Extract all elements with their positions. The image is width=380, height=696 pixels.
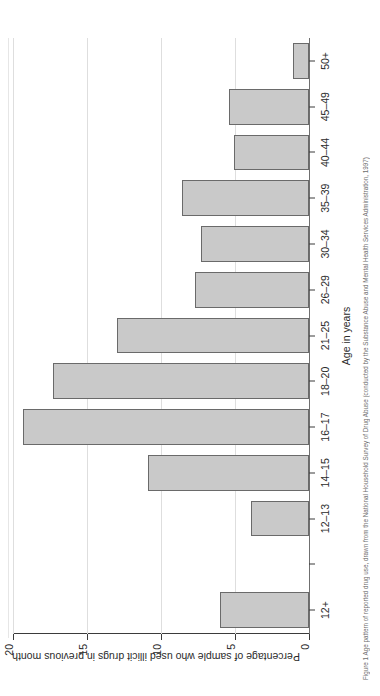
bar-slot: 26–29 xyxy=(14,267,309,313)
y-axis-title: Percentage of sample who used illicit dr… xyxy=(0,651,321,663)
x-axis-tick xyxy=(309,244,315,245)
bar xyxy=(148,455,309,491)
x-axis-tick xyxy=(309,106,315,107)
x-axis-tick xyxy=(309,427,315,428)
bar xyxy=(182,180,309,216)
bar xyxy=(229,89,309,125)
x-axis-tick-label: 12–13 xyxy=(319,504,331,533)
x-axis-tick-label: 50+ xyxy=(319,52,331,70)
bar-slot xyxy=(14,541,309,587)
bar xyxy=(53,363,309,399)
y-axis-tick xyxy=(309,634,310,640)
x-axis-tick-label: 45–49 xyxy=(319,92,331,121)
bar-slot: 30–34 xyxy=(14,221,309,267)
chart-plot-area: 05101520 12+12–1314–1516–1718–2021–2526–… xyxy=(14,38,310,634)
bar xyxy=(23,409,309,445)
bar-slot: 50+ xyxy=(14,38,309,84)
bar-slot: 45–49 xyxy=(14,84,309,130)
bar xyxy=(234,135,309,171)
x-axis-tick-label: 16–17 xyxy=(319,412,331,441)
figure-caption: Figure 1 Age pattern of reported drug us… xyxy=(362,8,370,680)
bar xyxy=(293,43,309,79)
y-axis-tick xyxy=(161,634,162,640)
y-axis-tick-label: 0 xyxy=(299,644,311,650)
bar-slot: 12+ xyxy=(14,587,309,633)
x-axis-tick xyxy=(309,610,315,611)
x-axis-tick xyxy=(309,289,315,290)
x-axis-tick-label: 35–39 xyxy=(319,184,331,213)
y-axis-tick-label: 5 xyxy=(225,644,237,650)
y-axis-tick xyxy=(13,634,14,640)
bar-slot: 12–13 xyxy=(14,496,309,542)
x-axis-tick xyxy=(309,152,315,153)
bar-slot: 35–39 xyxy=(14,175,309,221)
y-axis-line xyxy=(14,633,310,634)
x-axis-tick-label: 21–25 xyxy=(319,321,331,350)
x-axis-tick xyxy=(309,198,315,199)
bar xyxy=(220,592,309,628)
bar xyxy=(251,501,309,537)
bar xyxy=(117,318,309,354)
rotated-page-stage: 05101520 12+12–1314–1516–1718–2021–2526–… xyxy=(0,0,380,696)
x-axis-tick xyxy=(309,564,315,565)
x-axis-tick-label: 12+ xyxy=(319,601,331,619)
x-axis-tick xyxy=(309,381,315,382)
bar-slot: 18–20 xyxy=(14,358,309,404)
x-axis-tick-label: 40–44 xyxy=(319,138,331,167)
y-axis-tick xyxy=(235,634,236,640)
bar-slot: 40–44 xyxy=(14,130,309,176)
bars-group: 12+12–1314–1516–1718–2021–2526–2930–3435… xyxy=(14,38,309,633)
y-axis-tick xyxy=(87,634,88,640)
bar-slot: 21–25 xyxy=(14,313,309,359)
x-axis-tick-label: 30–34 xyxy=(319,229,331,258)
bar xyxy=(201,226,309,262)
bar-slot: 14–15 xyxy=(14,450,309,496)
x-axis-tick xyxy=(309,472,315,473)
bar xyxy=(195,272,309,308)
x-axis-title: Age in years xyxy=(340,38,352,634)
x-axis-tick-label: 18–20 xyxy=(319,367,331,396)
scan-artifact-line-top xyxy=(8,38,9,638)
bar-slot: 16–17 xyxy=(14,404,309,450)
figure-container: 05101520 12+12–1314–1516–1718–2021–2526–… xyxy=(0,0,380,696)
x-axis-tick xyxy=(309,518,315,519)
x-axis-tick xyxy=(309,60,315,61)
x-axis-tick-label: 26–29 xyxy=(319,275,331,304)
x-axis-tick-label: 14–15 xyxy=(319,458,331,487)
x-axis-tick xyxy=(309,335,315,336)
